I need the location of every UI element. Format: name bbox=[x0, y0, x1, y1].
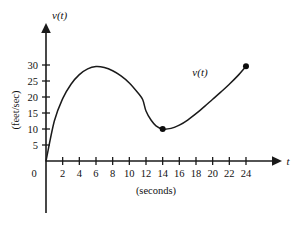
y-axis-tick-labels: 51015202530 bbox=[28, 60, 39, 151]
x-tick-label-6: 6 bbox=[93, 168, 98, 179]
x-tick-label-20: 20 bbox=[207, 168, 218, 179]
y-axis-arrow-icon bbox=[41, 23, 51, 33]
x-tick-label-8: 8 bbox=[110, 168, 115, 179]
x-tick-label-10: 10 bbox=[124, 168, 135, 179]
x-tick-label-4: 4 bbox=[77, 168, 83, 179]
marker-dot-endpoint bbox=[243, 63, 249, 69]
y-axis-name-label: v(t) bbox=[52, 9, 68, 22]
x-axis-name-label: t bbox=[286, 155, 290, 167]
y-tick-label-30: 30 bbox=[28, 60, 39, 71]
x-tick-label-0: 0 bbox=[31, 168, 36, 179]
y-tick-label-20: 20 bbox=[28, 92, 39, 103]
velocity-graph-figure: 024681012141618202224 51015202530 v(t) t… bbox=[0, 0, 298, 234]
y-tick-label-5: 5 bbox=[33, 140, 38, 151]
x-tick-label-24: 24 bbox=[241, 168, 252, 179]
y-axis-unit-label: (feet/sec) bbox=[10, 90, 22, 130]
marker-dot-minimum bbox=[160, 126, 166, 132]
y-tick-label-25: 25 bbox=[28, 76, 39, 87]
x-tick-label-22: 22 bbox=[224, 168, 235, 179]
y-tick-label-15: 15 bbox=[28, 108, 39, 119]
curve-label: v(t) bbox=[192, 66, 208, 79]
x-tick-label-18: 18 bbox=[191, 168, 202, 179]
x-axis-arrow-icon bbox=[272, 156, 282, 166]
x-axis-unit-label: (seconds) bbox=[136, 185, 177, 197]
x-tick-label-2: 2 bbox=[60, 168, 65, 179]
x-axis-tick-labels: 024681012141618202224 bbox=[31, 168, 252, 179]
y-tick-label-10: 10 bbox=[28, 124, 39, 135]
x-tick-label-12: 12 bbox=[141, 168, 152, 179]
x-tick-label-16: 16 bbox=[174, 168, 185, 179]
x-tick-label-14: 14 bbox=[157, 168, 168, 179]
plot-canvas: 024681012141618202224 51015202530 v(t) t… bbox=[0, 0, 298, 234]
velocity-curve bbox=[46, 66, 246, 161]
